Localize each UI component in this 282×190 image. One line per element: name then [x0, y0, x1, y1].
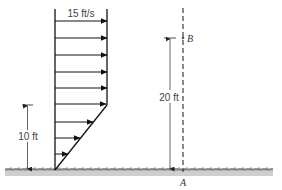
velocity-arrows: [55, 21, 107, 154]
dimension-10ft: 10 ft: [18, 105, 38, 169]
point-b-marker: [182, 37, 185, 40]
point-a-label: A: [179, 177, 187, 188]
point-a-marker: [182, 169, 185, 172]
ground: [5, 165, 273, 176]
point-b-label: B: [187, 33, 193, 44]
dimension-20ft: 20 ft: [159, 38, 179, 169]
velocity-profile: 15 ft/s: [55, 8, 107, 170]
velocity-label: 15 ft/s: [67, 8, 94, 19]
velocity-profile-diagram: 15 ft/s 10 ft B A 20 ft: [0, 0, 282, 190]
height-label-20ft: 20 ft: [159, 92, 179, 103]
height-label-10ft: 10 ft: [18, 131, 38, 142]
